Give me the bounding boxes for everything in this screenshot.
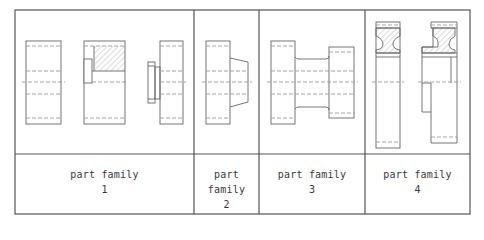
part-family-1-label: part family 1	[15, 167, 194, 197]
part-family-4-label: part family 4	[365, 167, 470, 197]
family-label-text: part family	[15, 167, 194, 182]
family-number: 1	[15, 182, 194, 197]
part-family-1-drawings	[22, 41, 186, 124]
family-label-text: part family	[365, 167, 470, 182]
part-family-3-drawing	[267, 41, 358, 124]
family-number: 4	[365, 182, 470, 197]
family-label-text: part family	[259, 167, 365, 182]
part-family-2-drawing	[202, 41, 252, 124]
family-number: 3	[259, 182, 365, 197]
part-family-2-label: part family 2	[194, 167, 259, 212]
part-family-4-drawings	[372, 22, 461, 148]
part-family-3-label: part family 3	[259, 167, 365, 197]
family-label-text: part family	[194, 167, 259, 197]
family-number: 2	[194, 197, 259, 212]
